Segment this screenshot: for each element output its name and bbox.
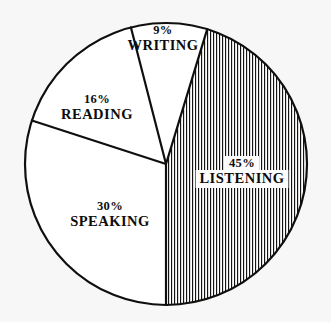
slice-category-label: SPEAKING [70, 213, 150, 229]
slice-percent-label: 16% [84, 92, 110, 106]
slice-percent-label: 30% [97, 199, 123, 213]
slice-category-label: WRITING [127, 37, 198, 53]
slice-percent-label: 45% [229, 156, 255, 170]
pie-chart: 45%LISTENING30%SPEAKING16%READING9%WRITI… [0, 0, 331, 322]
pie-chart-canvas: 45%LISTENING30%SPEAKING16%READING9%WRITI… [0, 0, 331, 322]
slice-percent-label: 9% [153, 23, 173, 37]
slice-category-label: READING [61, 106, 133, 122]
slice-category-label: LISTENING [199, 170, 284, 186]
